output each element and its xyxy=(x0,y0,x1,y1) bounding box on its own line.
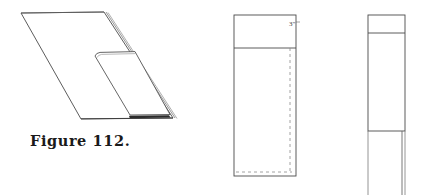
figure-caption: Figure 112. xyxy=(30,132,190,149)
perspective-view-drawing xyxy=(0,0,212,135)
front-view-drawing xyxy=(212,0,342,195)
figure-plate: 3" Figure 112. xyxy=(0,0,425,195)
perspective-view-panel xyxy=(0,0,212,135)
side-body-outline xyxy=(368,15,405,131)
side-view-drawing xyxy=(342,0,425,195)
dimension-label-3-inch: 3" xyxy=(289,21,295,28)
front-body-outline xyxy=(234,15,296,176)
front-view-panel xyxy=(212,0,342,195)
side-view-panel xyxy=(342,0,425,195)
